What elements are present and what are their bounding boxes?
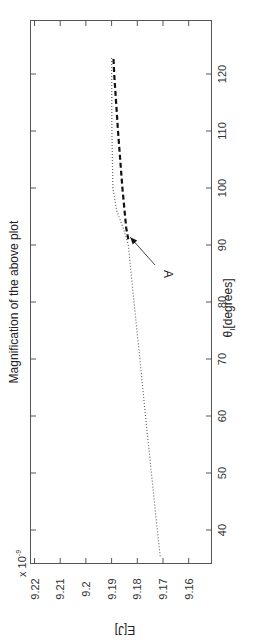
x-tick-label: 70 bbox=[216, 353, 228, 365]
x-tick-label: 50 bbox=[216, 467, 228, 479]
y-multiplier-label: x 10-9 bbox=[15, 550, 28, 577]
y-tick-label: 9.21 bbox=[54, 578, 66, 599]
chart-title: Magnification of the above plot bbox=[7, 220, 21, 383]
y-axis-label: E[J] bbox=[115, 623, 136, 637]
annotation-a: A bbox=[130, 237, 175, 278]
y-tick-label: 9.2 bbox=[80, 581, 92, 596]
dashed-series-line bbox=[113, 57, 128, 239]
plot-area bbox=[31, 21, 212, 564]
x-axis-label: θI[degrees] bbox=[221, 279, 237, 338]
x-tick-label: 40 bbox=[216, 524, 228, 536]
x-axis-ticks: 405060708090100110120 bbox=[31, 65, 228, 536]
x-tick-label: 110 bbox=[216, 122, 228, 140]
x-tick-label: 90 bbox=[216, 239, 228, 251]
chart: 405060708090100110120 9.229.219.29.199.1… bbox=[0, 0, 254, 644]
x-tick-label: 100 bbox=[216, 179, 228, 197]
y-tick-label: 9.17 bbox=[157, 578, 169, 599]
y-axis-ticks: 9.229.219.29.199.189.179.16 bbox=[29, 21, 195, 600]
y-tick-label: 9.22 bbox=[29, 578, 41, 599]
annotation-label: A bbox=[161, 270, 175, 278]
x-tick-label: 60 bbox=[216, 410, 228, 422]
y-tick-label: 9.16 bbox=[183, 578, 195, 599]
y-tick-label: 9.19 bbox=[106, 578, 118, 599]
x-tick-label: 120 bbox=[216, 65, 228, 83]
y-tick-label: 9.18 bbox=[131, 578, 143, 599]
